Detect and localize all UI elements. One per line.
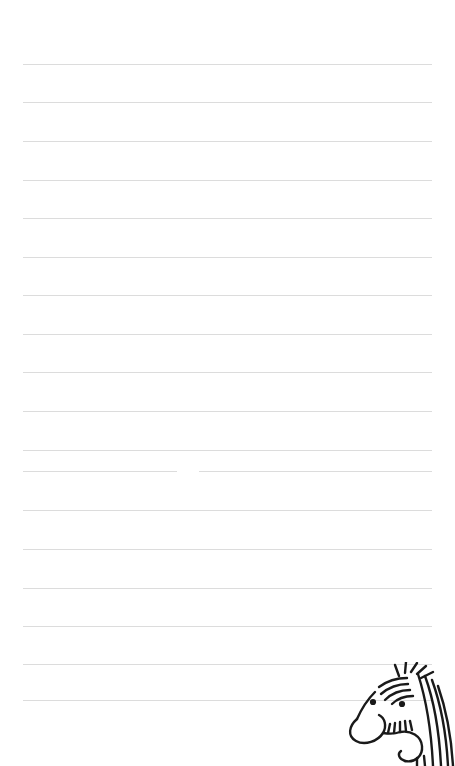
tooth-mark-4 [405, 721, 406, 731]
hair-strand-right-3 [432, 680, 448, 766]
ruled-line [23, 510, 432, 511]
hair-spike-2 [417, 666, 426, 674]
ruled-line [23, 295, 432, 296]
hair-strand-right-1 [418, 674, 433, 766]
head-left-contour [357, 692, 375, 719]
ruled-line [23, 334, 432, 335]
ruled-line [23, 664, 432, 665]
fringe-line-1 [379, 678, 407, 687]
ruled-line [23, 588, 432, 589]
mouth-lower-curve [399, 751, 405, 761]
cartoon-face-svg [345, 662, 455, 766]
tooth-mark-2 [394, 723, 395, 733]
face-outline-group [350, 662, 453, 766]
fringe-line-3 [385, 690, 410, 700]
nose-shape [350, 715, 385, 743]
hair-spike-5 [395, 665, 399, 676]
ruled-line [23, 700, 432, 701]
tooth-mark-1 [388, 724, 390, 733]
cheek-line [383, 732, 400, 734]
ruled-line [23, 218, 432, 219]
ruled-line [23, 450, 432, 451]
ruled-line [23, 141, 432, 142]
tooth-mark-5 [410, 721, 412, 730]
notebook-page: Blank lined notebook page Line-art carto… [0, 0, 455, 766]
ruled-line [23, 411, 432, 412]
cartoon-character-illustration [345, 662, 455, 766]
hair-strand-right-4 [438, 686, 453, 766]
ruled-line [23, 102, 432, 103]
neck-line-2 [424, 756, 425, 766]
ruled-line [23, 626, 432, 627]
fringe-line-2 [381, 684, 408, 694]
ruled-line-segment [199, 471, 432, 472]
hair-strand-right-2 [425, 676, 441, 766]
ruled-line [23, 180, 432, 181]
right-eye-dot [399, 701, 405, 707]
ruled-line [23, 372, 432, 373]
mouth-curve [400, 732, 422, 762]
ruled-line [23, 549, 432, 550]
ruled-line [23, 257, 432, 258]
ruled-line-segment [23, 471, 177, 472]
ruled-line [23, 64, 432, 65]
hair-spike-3 [421, 672, 433, 678]
